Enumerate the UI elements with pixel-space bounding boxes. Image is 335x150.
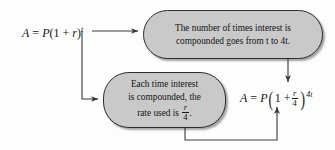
box-top-text: The number of times interest is compound… [165, 22, 301, 47]
box-bottom-text: Each time interest is compounded, the ra… [118, 78, 211, 122]
formula-left-lhs: A [22, 26, 29, 40]
formula-left-one: 1 [53, 26, 59, 40]
formula-right-exponent: 4t [306, 90, 312, 99]
box-top-line1: The number of times interest is [175, 23, 291, 33]
formula-left: A = P(1 + r)t [22, 25, 83, 41]
formula-right-close-paren: ) [300, 86, 305, 112]
diagram-canvas: A = P(1 + r)t The number of times intere… [0, 0, 335, 150]
formula-right-equals: = [250, 91, 257, 105]
arrow-left-formula-to-bottom-box [82, 31, 98, 99]
formula-right: A = P(1 +r4)4t [240, 86, 312, 112]
formula-right-fraction-denominator: 4 [292, 98, 298, 108]
formula-right-open-paren: ( [269, 86, 274, 112]
box-bottom-line3-end: . [190, 108, 192, 118]
formula-right-coefficient: P [260, 91, 267, 105]
box-bottom-line3-pre: rate used is [137, 108, 181, 118]
formula-right-one: 1 [275, 91, 281, 105]
formula-right-lhs: A [240, 91, 247, 105]
box-bottom-line2: is compounded, the [128, 92, 201, 102]
formula-left-equals: = [32, 26, 39, 40]
formula-left-exponent: t [81, 25, 83, 34]
box-top-compounding-frequency: The number of times interest is compound… [143, 10, 323, 59]
formula-right-plus: + [284, 91, 291, 105]
formula-left-plus: + [62, 26, 69, 40]
box-top-line2-end: . [288, 36, 290, 46]
box-top-line2-pre: compounded goes from [176, 36, 266, 46]
box-bottom-fraction-denominator: 4 [182, 112, 188, 122]
box-bottom-line1: Each time interest [131, 79, 198, 89]
formula-right-fraction: r4 [292, 89, 298, 108]
box-bottom-fraction-numerator: r [182, 103, 188, 112]
box-bottom-rate-per-period: Each time interest is compounded, the ra… [103, 72, 226, 128]
box-bottom-fraction: r4 [182, 103, 188, 122]
box-top-line2-mid: to 4 [269, 36, 286, 46]
formula-right-fraction-numerator: r [292, 89, 298, 98]
